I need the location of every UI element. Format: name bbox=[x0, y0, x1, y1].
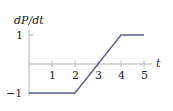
y-tick-label-1: 1 bbox=[16, 29, 23, 42]
x-tick-label-2: 2 bbox=[72, 69, 79, 82]
x-tick-label-5: 5 bbox=[141, 69, 148, 82]
x-axis-label: t bbox=[156, 57, 161, 70]
x-tick-label-1: 1 bbox=[49, 69, 56, 82]
y-axis-label: dP/dt bbox=[14, 14, 44, 27]
x-tick-label-3: 3 bbox=[95, 69, 102, 82]
y-tick-label-neg1: −1 bbox=[6, 87, 22, 100]
chart: dP/dt t 1 −1 1 2 3 4 5 bbox=[0, 0, 173, 111]
x-tick-label-4: 4 bbox=[118, 69, 125, 82]
